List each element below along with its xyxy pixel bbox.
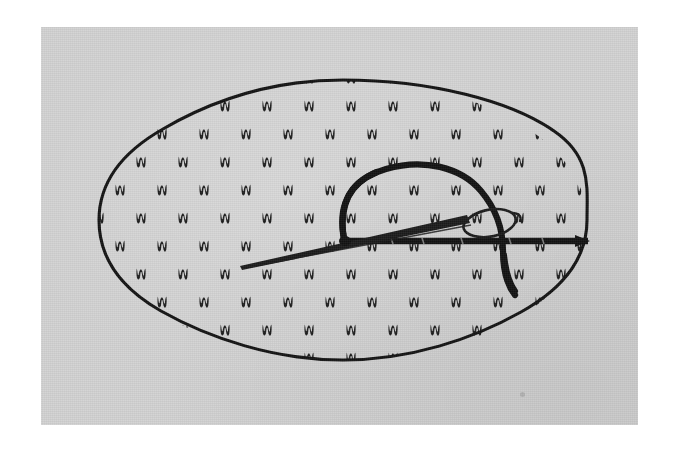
thread-crossing-knot [339, 236, 351, 246]
pattern-row [94, 101, 607, 112]
pattern-row [136, 353, 523, 364]
pattern-row [73, 185, 586, 196]
pattern-row [94, 269, 607, 280]
thread-tail-stroke [504, 255, 515, 291]
photograph-area [41, 27, 638, 425]
pattern-row [94, 157, 607, 168]
page-canvas: Black and white line illustration of an … [0, 0, 679, 449]
dust-speck [520, 392, 525, 397]
pattern-row [136, 73, 565, 84]
illustration-svg [41, 27, 638, 425]
pattern-row [94, 213, 607, 224]
thread-loop-overlap [342, 172, 377, 239]
